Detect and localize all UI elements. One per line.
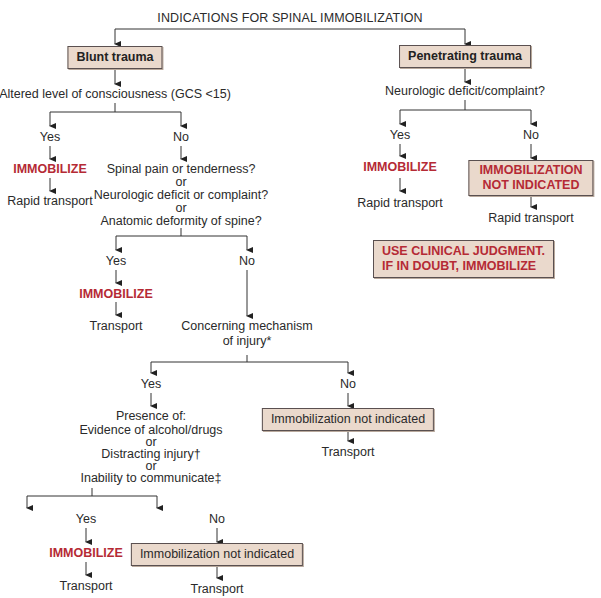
penetrating-q1-no-label: No: [523, 128, 539, 143]
penetrating-trauma-box: Penetrating trauma: [399, 45, 531, 68]
penetrating-not-indicated-box: IMMOBILIZATION NOT INDICATED: [468, 160, 593, 196]
blunt-trauma-box: Blunt trauma: [67, 46, 162, 69]
blunt-q4-no-label: No: [209, 512, 225, 527]
not-indicated-line-1: IMMOBILIZATION: [479, 163, 582, 178]
blunt-q2-no-label: No: [239, 254, 255, 269]
blunt-q4-not-indicated-box: Immobilization not indicated: [131, 543, 303, 566]
q2-or-2: or: [94, 203, 268, 214]
note-line-2: IF IN DOUBT, IMMOBILIZE: [382, 259, 545, 274]
blunt-q1-yes-label: Yes: [40, 130, 60, 145]
q4-or-2: or: [79, 461, 222, 471]
q4-or-1: or: [79, 437, 222, 447]
blunt-q2-yes-label: Yes: [106, 254, 126, 269]
blunt-q4-presence-of: Presence of: Evidence of alcohol/drugs o…: [79, 409, 222, 485]
blunt-q4-transport: Transport: [59, 579, 112, 594]
blunt-q4-immobilize: IMMOBILIZE: [49, 546, 123, 561]
blunt-q3-no-transport: Transport: [321, 445, 374, 460]
blunt-q2-immobilize: IMMOBILIZE: [79, 287, 153, 302]
penetrating-q1-rapid-transport: Rapid transport: [357, 196, 442, 211]
blunt-q2-spinal-questions: Spinal pain or tenderness? or Neurologic…: [94, 162, 268, 229]
q2-or-1: or: [94, 177, 268, 188]
chart-title: INDICATIONS FOR SPINAL IMMOBILIZATION: [157, 11, 422, 26]
penetrating-no-rapid-transport: Rapid transport: [488, 211, 573, 226]
blunt-q4-yes-label: Yes: [76, 512, 96, 527]
blunt-q1-rapid-transport: Rapid transport: [7, 194, 92, 209]
penetrating-q1-neurologic: Neurologic deficit/complaint?: [385, 84, 545, 99]
blunt-q4-no-transport: Transport: [190, 582, 243, 597]
q4-presence-of: Presence of:: [79, 409, 222, 423]
blunt-q3-no-label: No: [340, 377, 356, 392]
q3-line-1: Concerning mechanism: [181, 319, 312, 334]
q2-anatomic-deformity: Anatomic deformity of spine?: [94, 214, 268, 229]
blunt-q3-mechanism: Concerning mechanism of injury*: [181, 319, 312, 349]
blunt-q1-no-label: No: [173, 130, 189, 145]
q4-inability-communicate: Inability to communicate‡: [79, 471, 222, 485]
blunt-q1-immobilize: IMMOBILIZE: [13, 162, 87, 177]
blunt-q3-not-indicated-box: Immobilization not indicated: [262, 408, 434, 431]
blunt-q3-yes-label: Yes: [141, 377, 161, 392]
penetrating-q1-immobilize: IMMOBILIZE: [363, 160, 437, 175]
q3-line-2: of injury*: [181, 334, 312, 349]
clinical-judgment-note: USE CLINICAL JUDGMENT. IF IN DOUBT, IMMO…: [373, 240, 554, 278]
blunt-q2-transport: Transport: [89, 319, 142, 334]
note-line-1: USE CLINICAL JUDGMENT.: [382, 244, 545, 259]
blunt-q1-consciousness: Altered level of consciousness (GCS <15): [0, 87, 231, 102]
penetrating-q1-yes-label: Yes: [390, 128, 410, 143]
not-indicated-line-2: NOT INDICATED: [479, 178, 582, 193]
